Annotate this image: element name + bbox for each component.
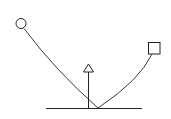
square-icon: [149, 43, 161, 55]
triangle-icon: [84, 64, 94, 72]
circle-icon: [16, 19, 26, 29]
diagram-canvas: [0, 0, 171, 119]
curve-to-square: [98, 54, 152, 108]
